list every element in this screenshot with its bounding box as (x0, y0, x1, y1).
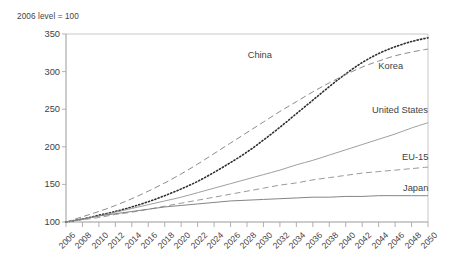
x-tick-label: 2022 (188, 230, 209, 251)
x-axis-labels: 2006200820102012201420162018202020222024… (0, 0, 450, 276)
x-tick-label: 2044 (369, 230, 390, 251)
series-label-eu-15: EU-15 (402, 152, 428, 162)
x-tick-label: 2026 (221, 230, 242, 251)
x-tick-label: 2048 (402, 230, 423, 251)
x-tick-label: 2040 (336, 230, 357, 251)
x-tick-label: 2042 (353, 230, 374, 251)
x-tick-label: 2046 (386, 230, 407, 251)
x-tick-label: 2024 (205, 230, 226, 251)
x-tick-label: 2034 (287, 230, 308, 251)
x-tick-label: 2012 (106, 230, 127, 251)
x-tick-label: 2030 (254, 230, 275, 251)
x-tick-label: 2050 (419, 230, 440, 251)
series-label-korea: Korea (378, 61, 403, 71)
series-label-china: China (248, 50, 272, 60)
series-label-japan: Japan (403, 183, 428, 193)
line-chart: 2006 level = 100 100150200250300350 2006… (0, 0, 450, 276)
x-tick-label: 2008 (73, 230, 94, 251)
x-tick-label: 2018 (155, 230, 176, 251)
x-tick-label: 2020 (172, 230, 193, 251)
x-tick-label: 2038 (320, 230, 341, 251)
x-tick-label: 2016 (139, 230, 160, 251)
series-label-united-states: United States (372, 105, 428, 115)
